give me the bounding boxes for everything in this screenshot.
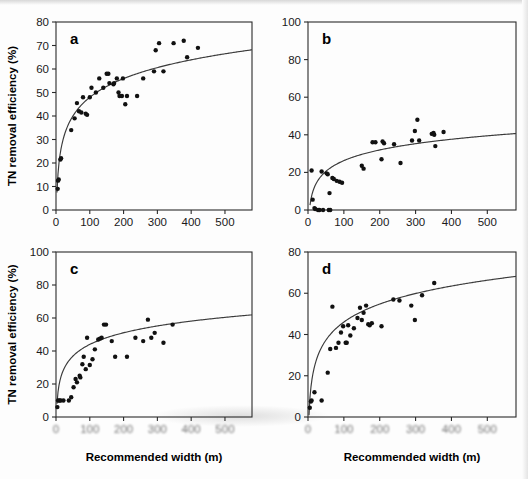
data-point: [90, 357, 94, 361]
data-point: [382, 141, 386, 145]
data-point: [319, 169, 323, 173]
data-point: [161, 69, 165, 73]
y-tick-label: 40: [36, 345, 49, 357]
y-tick-label: 80: [36, 279, 49, 291]
data-point: [432, 281, 436, 285]
y-tick-label: 20: [36, 157, 49, 169]
data-point: [391, 297, 395, 301]
data-point: [413, 318, 417, 322]
data-point: [410, 138, 414, 142]
data-point: [360, 318, 364, 322]
x-tick-label: 100: [80, 216, 99, 228]
data-point: [361, 311, 365, 315]
data-points-group: [55, 39, 200, 191]
x-axis-title: Recommended width (m): [344, 451, 481, 463]
y-tick-label: 80: [288, 246, 301, 258]
y-tick-label: 100: [30, 246, 49, 258]
data-point: [398, 161, 402, 165]
data-points-group: [309, 118, 445, 213]
data-point: [328, 347, 332, 351]
panel-b: 0204060801000100200300400500b: [264, 8, 528, 240]
data-point: [75, 101, 79, 105]
data-point: [69, 128, 73, 132]
data-point: [84, 367, 88, 371]
data-point: [326, 172, 330, 176]
x-tick-label: 500: [478, 216, 497, 228]
data-point: [196, 46, 200, 50]
data-points-group: [308, 281, 437, 410]
y-tick-label: 100: [282, 16, 301, 28]
y-tick-label: 80: [36, 16, 49, 28]
data-point: [308, 406, 312, 410]
data-point: [85, 336, 89, 340]
x-tick-label: 100: [334, 216, 353, 228]
data-point: [141, 76, 145, 80]
data-point: [89, 86, 93, 90]
data-point: [432, 133, 436, 137]
y-tick-label: 0: [295, 411, 301, 423]
data-point: [420, 293, 424, 297]
x-tick-label: 300: [148, 216, 167, 228]
data-point: [106, 72, 110, 76]
data-point: [379, 324, 383, 328]
x-tick-label: 200: [370, 423, 389, 435]
data-point: [379, 157, 383, 161]
x-tick-label: 0: [305, 216, 311, 228]
data-point: [59, 156, 63, 160]
x-axis-title: Recommended width (m): [86, 451, 223, 463]
x-tick-label: 0: [305, 423, 311, 435]
data-point: [125, 355, 129, 359]
data-point: [133, 336, 137, 340]
panel-c: 0204060801000100200300400500cTN removal …: [0, 238, 264, 479]
y-tick-label: 20: [36, 378, 49, 390]
data-point: [364, 303, 368, 307]
data-point: [397, 298, 401, 302]
y-tick-label: 40: [288, 129, 301, 141]
x-tick-label: 200: [114, 216, 133, 228]
data-point: [61, 398, 65, 402]
data-point: [121, 76, 125, 80]
y-tick-label: 40: [36, 110, 49, 122]
x-tick-label: 100: [80, 423, 99, 435]
data-point: [112, 81, 116, 85]
y-tick-label: 0: [295, 204, 301, 216]
data-point: [149, 336, 153, 340]
data-point: [409, 303, 413, 307]
x-tick-label: 200: [114, 423, 133, 435]
data-point: [328, 208, 332, 212]
data-point: [309, 168, 313, 172]
fit-curve: [310, 134, 516, 206]
data-point: [157, 41, 161, 45]
data-point: [55, 405, 59, 409]
data-point: [88, 363, 92, 367]
data-point: [334, 346, 338, 350]
data-point: [341, 324, 345, 328]
x-tick-label: 400: [182, 216, 201, 228]
scan-edge-top: [0, 0, 528, 5]
data-point: [82, 355, 86, 359]
x-tick-label: 100: [334, 423, 353, 435]
fit-curve: [309, 276, 516, 415]
data-point: [94, 90, 98, 94]
data-point: [433, 144, 437, 148]
y-tick-label: 60: [36, 63, 49, 75]
data-point: [340, 181, 344, 185]
data-point: [326, 370, 330, 374]
data-point: [345, 341, 349, 345]
data-point: [413, 129, 417, 133]
data-point: [85, 113, 89, 117]
panel-letter-label: b: [322, 30, 331, 47]
data-point: [152, 69, 156, 73]
y-tick-label: 30: [36, 134, 49, 146]
figure-canvas: 010203040506070800100200300400500aTN rem…: [0, 0, 528, 479]
y-tick-label: 0: [43, 411, 49, 423]
panel-a: 010203040506070800100200300400500aTN rem…: [0, 8, 264, 240]
data-point: [57, 177, 61, 181]
data-point: [113, 355, 117, 359]
fit-curve: [57, 315, 252, 404]
data-point: [81, 95, 85, 99]
y-tick-label: 60: [36, 312, 49, 324]
panel-letter-label: c: [70, 260, 78, 277]
y-tick-label: 20: [288, 166, 301, 178]
data-point: [72, 116, 76, 120]
